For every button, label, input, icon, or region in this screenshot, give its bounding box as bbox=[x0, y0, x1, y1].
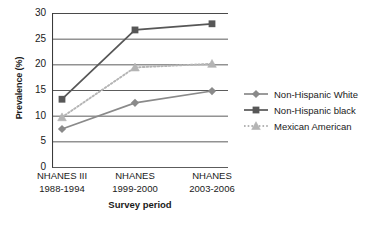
x-tick-line: NHANES bbox=[169, 170, 255, 183]
legend-marker-triangle-icon bbox=[243, 119, 269, 133]
data-point-diamond bbox=[208, 87, 216, 95]
x-tick-line: 1999-2000 bbox=[92, 183, 178, 196]
legend-label: Mexican American bbox=[274, 121, 352, 132]
legend-item-2[interactable]: Mexican American bbox=[243, 118, 377, 134]
y-tick-20: 20 bbox=[24, 59, 46, 69]
series-0 bbox=[58, 87, 216, 133]
data-point-square bbox=[209, 20, 216, 27]
plot-area bbox=[52, 13, 228, 167]
legend-item-0[interactable]: Non-Hispanic White bbox=[243, 86, 377, 102]
x-tick-2: NHANES2003-2006 bbox=[169, 170, 255, 195]
series-line bbox=[62, 24, 212, 99]
data-point-diamond bbox=[131, 99, 139, 107]
y-tick-30: 30 bbox=[24, 8, 46, 18]
legend-label: Non-Hispanic White bbox=[274, 89, 358, 100]
x-tick-line: NHANES bbox=[92, 170, 178, 183]
chart-canvas bbox=[52, 13, 228, 168]
series-line bbox=[62, 91, 212, 129]
data-point-diamond bbox=[252, 90, 260, 98]
x-tick-line: 2003-2006 bbox=[169, 183, 255, 196]
legend-label: Non-Hispanic black bbox=[274, 105, 356, 116]
y-tick-15: 15 bbox=[24, 85, 46, 95]
data-point-triangle bbox=[131, 63, 140, 71]
legend-item-1[interactable]: Non-Hispanic black bbox=[243, 102, 377, 118]
y-tick-10: 10 bbox=[24, 111, 46, 121]
y-tick-25: 25 bbox=[24, 34, 46, 44]
data-point-square bbox=[59, 96, 66, 103]
legend-marker-diamond-icon bbox=[243, 87, 269, 101]
y-axis-title: Prevalence (%) bbox=[14, 28, 24, 148]
x-axis-title: Survey period bbox=[52, 199, 228, 210]
data-point-square bbox=[253, 107, 260, 114]
prevalence-line-chart: Prevalence (%) 302520151050 NHANES III19… bbox=[0, 0, 377, 226]
y-tick-5: 5 bbox=[24, 136, 46, 146]
chart-legend: Non-Hispanic WhiteNon-Hispanic blackMexi… bbox=[243, 86, 377, 134]
data-point-square bbox=[132, 27, 139, 34]
data-point-diamond bbox=[58, 125, 66, 133]
x-tick-1: NHANES1999-2000 bbox=[92, 170, 178, 195]
legend-marker-square-icon bbox=[243, 103, 269, 117]
